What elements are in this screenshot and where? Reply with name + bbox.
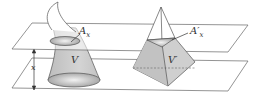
label-v: V [71, 55, 78, 65]
label-ax: Ax [79, 26, 90, 39]
curved-solid-base [48, 73, 100, 87]
label-axp: A′x [190, 26, 203, 39]
lower-plane [12, 58, 248, 91]
upper-plane [12, 23, 248, 52]
cavalieri-diagram [0, 0, 257, 96]
label-vp: V′ [168, 55, 178, 65]
label-x: x [31, 64, 36, 72]
